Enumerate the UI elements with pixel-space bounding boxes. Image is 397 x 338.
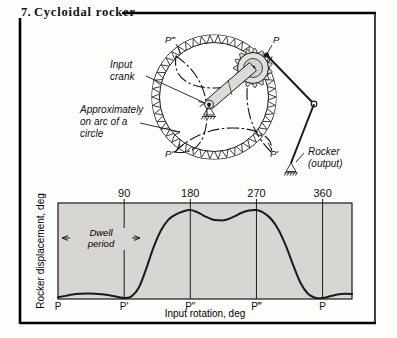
label-p-triple-prime: P‴ — [165, 34, 176, 45]
dwell-period-line2: period — [87, 238, 115, 249]
plot-x-tick-label: 90 — [118, 187, 130, 199]
plot-point-label: P — [55, 301, 62, 312]
figure-root: 7.Cycloidal rocker — [0, 0, 397, 338]
dwell-period-line1: Dwell — [89, 227, 113, 238]
plot-x-tick-label: 360 — [313, 187, 331, 199]
plot-point-label: P' — [120, 301, 129, 312]
plot-x-tick-label: 180 — [181, 187, 199, 199]
plot-point-label: P — [319, 301, 326, 312]
label-approx-line1: Approximately — [79, 104, 144, 115]
plot-point-label: P‴ — [251, 301, 262, 312]
label-rocker-line1: Rocker — [308, 146, 340, 157]
plot-x-tick-labels: 90180270360 — [118, 187, 332, 203]
label-input-crank-line1: Input — [110, 59, 133, 70]
x-axis-label: Input rotation, deg — [165, 308, 246, 319]
dwell-period-annotation: Dwell period — [62, 227, 140, 250]
label-approx-line3: circle — [80, 128, 104, 139]
plot-x-tick-label: 270 — [247, 187, 265, 199]
mechanism-diagram: P‴ P P" P' Input crank Approximately on … — [79, 34, 342, 176]
figure-canvas: P‴ P P" P' Input crank Approximately on … — [0, 0, 397, 338]
label-p: P — [273, 34, 280, 45]
label-approx-line2: on arc of a — [80, 116, 128, 127]
displacement-chart: 90180270360 Dwell period PP'P"P‴P Input … — [35, 187, 352, 319]
ground-pivot-rocker — [284, 163, 297, 176]
label-input-crank-line2: crank — [110, 71, 135, 82]
y-axis-label: Rocker displacement, deg — [35, 193, 46, 309]
label-p-prime: P' — [270, 148, 279, 159]
label-p-double-prime: P" — [165, 148, 175, 159]
label-rocker-line2: (output) — [308, 158, 342, 169]
